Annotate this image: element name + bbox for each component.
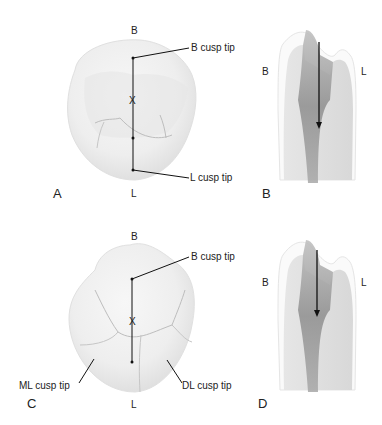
figure-artwork: [0, 0, 382, 425]
panel-c-dl-cusp-tip-label: DL cusp tip: [182, 380, 232, 391]
tooth-figure: B B cusp tip X L cusp tip L A B L B B B …: [0, 0, 382, 425]
tooth-a-occlusal: [68, 40, 196, 180]
panel-c-ml-cusp-tip-label: ML cusp tip: [19, 380, 70, 391]
panel-a-l-cusp-tip-label: L cusp tip: [190, 172, 232, 183]
tooth-d-section: [278, 240, 356, 392]
panel-c-top-label: B: [131, 231, 138, 242]
tooth-b-section: [278, 30, 356, 183]
panel-b-left-label: B: [262, 66, 269, 77]
panel-c-b-cusp-tip-label: B cusp tip: [191, 251, 235, 262]
panel-c-letter: C: [27, 397, 36, 411]
panel-c-center-mark: X: [129, 316, 136, 327]
panel-d-right-label: L: [361, 277, 367, 288]
panel-b-right-label: L: [361, 66, 367, 77]
panel-a-center-mark: X: [129, 95, 136, 106]
panel-a-bottom-label: L: [131, 188, 137, 199]
panel-c-bottom-label: L: [131, 399, 137, 410]
panel-d-left-label: B: [262, 277, 269, 288]
panel-d-letter: D: [258, 397, 267, 411]
panel-a-b-cusp-tip-label: B cusp tip: [191, 42, 235, 53]
panel-b-letter: B: [262, 187, 271, 201]
panel-a-letter: A: [53, 187, 62, 201]
panel-a-top-label: B: [131, 25, 138, 36]
